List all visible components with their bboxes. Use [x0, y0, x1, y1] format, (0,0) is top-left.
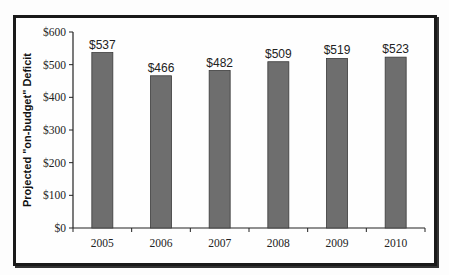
data-label: $519 [324, 43, 351, 57]
x-tick-label: 2009 [326, 237, 349, 249]
bar [385, 57, 406, 228]
bar-chart: Projected "on-budget" Deficit $0$100$200… [0, 0, 449, 275]
y-tick-label: $300 [43, 124, 66, 136]
bar [151, 76, 172, 228]
y-tick-label: $100 [43, 189, 66, 201]
bar [268, 62, 289, 228]
x-tick-label: 2005 [91, 237, 114, 249]
x-tick-label: 2010 [384, 237, 407, 249]
bar [209, 71, 230, 228]
data-label: $523 [382, 42, 409, 56]
data-label: $509 [265, 47, 292, 61]
data-label: $537 [89, 38, 116, 52]
bar [92, 53, 113, 228]
x-tick-label: 2007 [208, 237, 231, 249]
bar [327, 58, 348, 228]
x-axis: 200520062007200820092010 [73, 228, 425, 249]
x-tick-label: 2006 [150, 237, 173, 249]
y-tick-label: $500 [43, 59, 66, 71]
y-tick-label: $200 [43, 157, 66, 169]
y-tick-label: $0 [55, 222, 67, 234]
y-tick-label: $600 [43, 26, 66, 38]
data-label: $482 [206, 56, 233, 70]
y-tick-label: $400 [43, 91, 66, 103]
y-axis: $0$100$200$300$400$500$600 [43, 26, 73, 234]
y-axis-label: Projected "on-budget" Deficit [21, 53, 33, 207]
bars: $537$466$482$509$519$523 [89, 38, 409, 228]
data-label: $466 [148, 61, 175, 75]
x-tick-label: 2008 [267, 237, 290, 249]
